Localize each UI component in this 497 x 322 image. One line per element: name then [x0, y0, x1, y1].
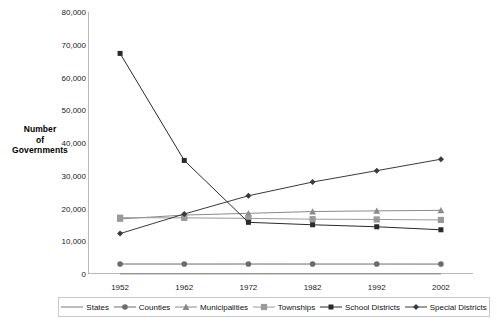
legend-item-states[interactable]: States	[61, 302, 109, 312]
data-point	[310, 261, 316, 267]
legend-item-special-districts[interactable]: Special Districts	[405, 302, 487, 312]
data-point	[374, 168, 380, 174]
series-canvas	[88, 12, 473, 274]
series-school-districts	[118, 51, 444, 232]
data-point	[438, 261, 444, 267]
y-tick-label: 50,000	[40, 106, 86, 115]
legend-marker-icon	[405, 302, 427, 312]
plot-area	[88, 12, 473, 274]
data-point	[438, 217, 444, 223]
legend-item-label: School Districts	[344, 303, 400, 312]
data-point	[246, 220, 251, 225]
legend-marker-icon	[61, 302, 83, 312]
y-tick-label: 20,000	[40, 204, 86, 213]
x-tick-label: 1982	[285, 283, 341, 292]
data-point	[374, 261, 380, 267]
data-point	[246, 261, 252, 267]
data-point	[374, 216, 380, 222]
data-point	[438, 156, 444, 162]
legend-item-label: States	[85, 303, 109, 312]
y-tick-label: 60,000	[40, 73, 86, 82]
series-line	[120, 53, 441, 229]
legend-item-label: Counties	[138, 303, 171, 312]
data-point	[117, 215, 123, 221]
chart-legend: StatesCountiesMunicipalitiesTownshipsSch…	[58, 297, 490, 317]
data-point	[309, 216, 315, 222]
y-tick-label: 40,000	[40, 139, 86, 148]
data-point	[310, 222, 315, 227]
x-tick-label: 1992	[349, 283, 405, 292]
data-point	[374, 224, 379, 229]
x-tick-label: 1962	[156, 283, 212, 292]
y-tick-label: 70,000	[40, 40, 86, 49]
y-tick-label: 80,000	[40, 8, 86, 17]
series-counties	[117, 261, 443, 267]
legend-marker-icon	[253, 302, 275, 312]
data-point	[181, 261, 187, 267]
data-point	[438, 227, 443, 232]
y-tick-label: 10,000	[40, 237, 86, 246]
data-point	[118, 51, 123, 56]
legend-marker-icon	[320, 302, 342, 312]
legend-marker-icon	[114, 302, 136, 312]
series-special-districts	[117, 156, 444, 236]
legend-item-label: Townships	[277, 303, 315, 312]
line-chart: Number of Governments 010,00020,00030,00…	[0, 0, 497, 322]
data-point	[245, 193, 251, 199]
x-tick-label: 1972	[220, 283, 276, 292]
legend-item-counties[interactable]: Counties	[114, 302, 171, 312]
data-point	[182, 158, 187, 163]
legend-item-municipalities[interactable]: Municipalities	[175, 302, 248, 312]
y-axis-ticks: 010,00020,00030,00040,00050,00060,00070,…	[36, 0, 86, 322]
legend-item-label: Municipalities	[199, 303, 248, 312]
y-tick-label: 30,000	[40, 171, 86, 180]
x-tick-label: 1952	[92, 283, 148, 292]
legend-item-townships[interactable]: Townships	[253, 302, 315, 312]
x-tick-label: 2002	[413, 283, 469, 292]
legend-marker-icon	[175, 302, 197, 312]
legend-item-school-districts[interactable]: School Districts	[320, 302, 400, 312]
data-point	[117, 261, 123, 267]
legend-item-label: Special Districts	[429, 303, 487, 312]
data-point	[117, 231, 123, 237]
y-tick-label: 0	[40, 270, 86, 279]
series-line	[120, 159, 441, 233]
data-point	[310, 179, 316, 185]
